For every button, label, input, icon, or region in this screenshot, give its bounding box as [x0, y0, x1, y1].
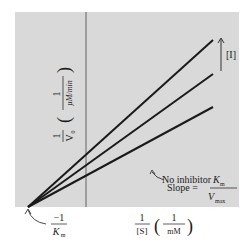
x-axis-label: 1 [S] ( 1 mM ) — [135, 212, 193, 237]
y-label-unit-den: µM/min — [65, 80, 74, 106]
x-intercept-den: K — [52, 226, 61, 237]
y-label-den: V — [64, 134, 75, 142]
km-intercept-arrowhead-icon — [25, 209, 31, 214]
x-intercept-num: −1 — [54, 212, 65, 223]
x-label-den: [S] — [137, 226, 148, 236]
x-label-num: 1 — [140, 212, 145, 223]
x-intercept-den-sub: m — [61, 232, 66, 238]
y-label-num: 1 — [51, 134, 62, 139]
x-label-paren-open: ( — [154, 216, 160, 237]
slope-km-sub: m — [220, 181, 225, 187]
y-label-paren-open: ( — [54, 117, 75, 123]
x-label-paren-close: ) — [187, 216, 193, 237]
y-label-unit-num: 1 — [51, 92, 62, 97]
y-label-den-sub: 0 — [70, 131, 76, 134]
km-intercept-curved-arrow-icon — [28, 210, 46, 224]
slope-vmax-sub: max — [215, 198, 225, 204]
y-label-paren-close: ) — [54, 67, 75, 73]
x-intercept-label: −1 K m — [51, 212, 67, 238]
slope-label: Slope = — [167, 182, 198, 193]
lineweaver-burk-chart: [I] 1 V 0 ( 1 µM/min ) No inhibitor Slop… — [0, 0, 252, 247]
inhibitor-label: [I] — [226, 49, 236, 60]
x-label-unit-den: mM — [167, 227, 180, 236]
x-label-unit-num: 1 — [172, 212, 177, 223]
